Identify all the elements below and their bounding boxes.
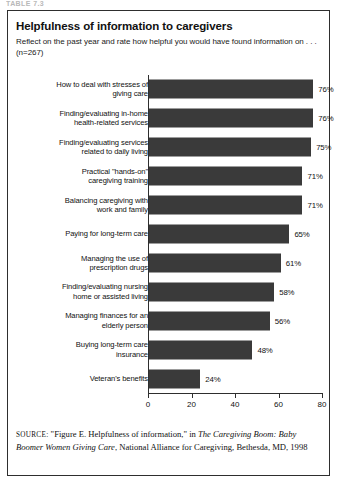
bar bbox=[148, 224, 289, 243]
bar-rows: How to deal with stresses ofgiving care7… bbox=[8, 75, 329, 393]
x-axis-tick bbox=[192, 393, 193, 398]
bar-category-label: How to deal with stresses ofgiving care bbox=[16, 80, 148, 99]
bar bbox=[148, 109, 313, 128]
bar-row: How to deal with stresses ofgiving care7… bbox=[8, 75, 329, 104]
bar bbox=[148, 253, 281, 272]
bar-value-label: 58% bbox=[279, 287, 294, 296]
x-axis-tick-label: 80 bbox=[318, 400, 327, 409]
bar bbox=[148, 167, 302, 186]
x-axis-tick bbox=[235, 393, 236, 398]
bar-category-label: Balancing caregiving withwork and family bbox=[16, 196, 148, 215]
bar-row: Finding/evaluating servicesrelated to da… bbox=[8, 133, 329, 162]
source-note: SOURCE: "Figure E. Helpfulness of inform… bbox=[16, 429, 318, 453]
bar bbox=[148, 369, 200, 388]
bar-value-label: 76% bbox=[318, 85, 333, 94]
chart-title: Helpfulness of information to caregivers bbox=[16, 20, 316, 33]
bar-value-label: 65% bbox=[294, 229, 309, 238]
bar-value-label: 61% bbox=[286, 258, 301, 267]
bar-value-label: 71% bbox=[307, 172, 322, 181]
bar bbox=[148, 340, 252, 359]
bar bbox=[148, 138, 311, 157]
x-axis-tick-label: 20 bbox=[187, 400, 196, 409]
bar-value-label: 56% bbox=[275, 316, 290, 325]
bar-row: Finding/evaluating nursinghome or assist… bbox=[8, 277, 329, 306]
bar-row: Paying for long-term care65% bbox=[8, 220, 329, 249]
bar-value-label: 71% bbox=[307, 201, 322, 210]
source-label: SOURCE: bbox=[16, 431, 48, 439]
figure-page: TABLE 7.3 Helpfulness of information to … bbox=[0, 0, 337, 482]
bar-row: Managing finances for anelderly person56… bbox=[8, 306, 329, 335]
bar bbox=[148, 282, 274, 301]
bar bbox=[148, 80, 313, 99]
source-text-1: "Figure E. Helpfulness of information," … bbox=[48, 429, 198, 439]
bar-row: Finding/evaluating in-homehealth-related… bbox=[8, 104, 329, 133]
bar-row: Managing the use ofprescription drugs61% bbox=[8, 248, 329, 277]
bar-category-label: Practical "hands-on"caregiving training bbox=[16, 167, 148, 186]
bar-category-label: Finding/evaluating in-homehealth-related… bbox=[16, 109, 148, 128]
bar-value-label: 48% bbox=[257, 345, 272, 354]
bar-category-label: Managing the use ofprescription drugs bbox=[16, 254, 148, 273]
x-axis-tick bbox=[148, 393, 149, 398]
x-axis-tick-label: 40 bbox=[231, 400, 240, 409]
x-axis-tick bbox=[322, 393, 323, 398]
x-axis-tick-label: 0 bbox=[146, 400, 150, 409]
x-axis-tick-label: 60 bbox=[274, 400, 283, 409]
running-head: TABLE 7.3 bbox=[6, 0, 126, 7]
bar-category-label: Paying for long-term care bbox=[16, 229, 148, 238]
bar-row: Veteran's benefits24% bbox=[8, 364, 329, 393]
bar-category-label: Managing finances for anelderly person bbox=[16, 311, 148, 330]
bar-row: Buying long-term careinsurance48% bbox=[8, 335, 329, 364]
figure-box: Helpfulness of information to caregivers… bbox=[7, 10, 330, 476]
source-text-2: , National Alliance for Caregiving, Beth… bbox=[115, 442, 308, 452]
bar-category-label: Finding/evaluating nursinghome or assist… bbox=[16, 282, 148, 301]
bar bbox=[148, 311, 270, 330]
bar bbox=[148, 196, 302, 215]
bar-value-label: 75% bbox=[316, 143, 331, 152]
chart-plot-area: How to deal with stresses ofgiving care7… bbox=[8, 75, 329, 415]
bar-category-label: Finding/evaluating servicesrelated to da… bbox=[16, 138, 148, 157]
y-axis-line bbox=[148, 75, 149, 393]
bar-category-label: Veteran's benefits bbox=[16, 374, 148, 383]
chart-subtitle: Reflect on the past year and rate how he… bbox=[16, 36, 318, 58]
bar-value-label: 76% bbox=[318, 114, 333, 123]
bar-value-label: 24% bbox=[205, 374, 220, 383]
x-axis-tick bbox=[279, 393, 280, 398]
bar-row: Practical "hands-on"caregiving training7… bbox=[8, 162, 329, 191]
bar-category-label: Buying long-term careinsurance bbox=[16, 340, 148, 359]
bar-row: Balancing caregiving withwork and family… bbox=[8, 191, 329, 220]
